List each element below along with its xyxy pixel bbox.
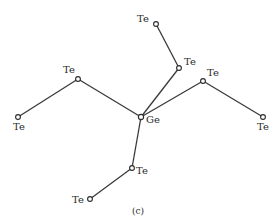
figure-caption: (c) — [132, 206, 144, 216]
atom-te_up1 — [177, 66, 182, 71]
atom-te_left2 — [16, 115, 21, 120]
bond-te_up1-te_up2 — [156, 24, 179, 68]
atom-label-te_up2: Te — [137, 13, 149, 24]
atom-label-te_up1: Te — [184, 56, 196, 67]
atom-ge — [138, 114, 143, 119]
atom-label-te_right2: Te — [257, 121, 269, 132]
atom-te_up2 — [154, 22, 159, 27]
bond-te_right1-te_right2 — [203, 81, 263, 117]
ge-te-structure-diagram: GeTeTeTeTeTeTeTeTe (c) — [0, 0, 277, 224]
atom-te_right2 — [261, 115, 266, 120]
labels-layer: GeTeTeTeTeTeTeTeTe — [13, 13, 269, 205]
bond-ge-te_down1 — [132, 117, 141, 168]
atom-label-te_left2: Te — [13, 121, 25, 132]
atom-label-ge: Ge — [146, 114, 160, 125]
atom-label-te_down1: Te — [136, 165, 148, 176]
bond-ge-te_right1 — [141, 81, 203, 117]
atom-label-te_right1: Te — [207, 67, 219, 78]
atom-te_down2 — [88, 197, 93, 202]
atom-te_right1 — [201, 79, 206, 84]
atom-label-te_left1: Te — [63, 64, 75, 75]
bond-te_left1-te_left2 — [18, 79, 78, 117]
bond-te_down1-te_down2 — [90, 168, 132, 199]
atom-te_left1 — [76, 77, 81, 82]
atom-te_down1 — [130, 166, 135, 171]
bond-ge-te_up1 — [141, 68, 179, 117]
atom-label-te_down2: Te — [72, 194, 84, 205]
bond-ge-te_left1 — [78, 79, 141, 117]
